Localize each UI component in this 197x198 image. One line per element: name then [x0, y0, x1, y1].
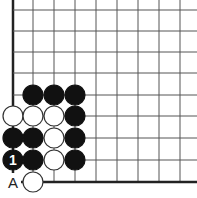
black-stone	[65, 128, 85, 148]
point-label-marker: A	[8, 174, 18, 191]
go-board: 1 A	[0, 0, 197, 198]
black-stone	[65, 85, 85, 105]
black-stone	[44, 85, 64, 105]
white-stone	[3, 106, 23, 126]
black-stone	[23, 85, 43, 105]
white-stone	[44, 150, 64, 170]
black-stone: 1	[3, 150, 23, 170]
black-stone	[23, 128, 43, 148]
white-stone	[44, 128, 64, 148]
white-stone	[23, 172, 43, 192]
white-stone	[23, 106, 43, 126]
markers-layer: A	[5, 173, 21, 191]
black-stone	[3, 128, 23, 148]
black-stone	[65, 150, 85, 170]
move-number-label: 1	[9, 152, 17, 168]
white-stone	[44, 106, 64, 126]
black-stone	[23, 150, 43, 170]
black-stone	[65, 106, 85, 126]
